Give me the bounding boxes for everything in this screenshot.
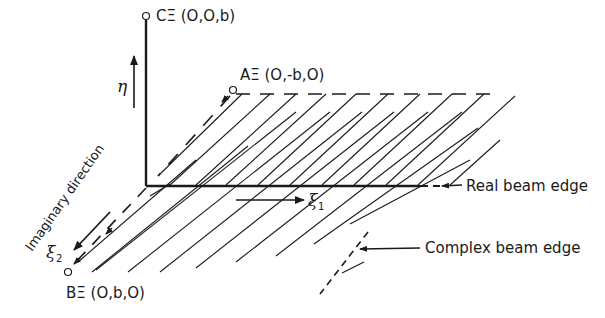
complex-beam-edge-pointer [360, 248, 420, 249]
xi2-subscript: 2 [56, 253, 62, 264]
xi1-subscript: 1 [318, 201, 324, 212]
point-a-marker [230, 87, 237, 94]
real-beam-edge-pointer [442, 185, 462, 186]
complex-beam-edge-label: Complex beam edge [425, 239, 580, 257]
point-b-marker [65, 269, 72, 276]
real-beam-edge-label: Real beam edge [466, 177, 588, 195]
point-c-marker [143, 13, 150, 20]
point-c-label: CΞ (O,O,b) [156, 7, 235, 25]
point-a-label: AΞ (O,-b,O) [240, 66, 324, 84]
point-b-label: BΞ (O,b,O) [66, 284, 145, 302]
beam-edge-diagram: η ξ 1 ξ 2 Imaginary direction Real beam … [0, 0, 605, 318]
eta-label: η [117, 76, 128, 96]
